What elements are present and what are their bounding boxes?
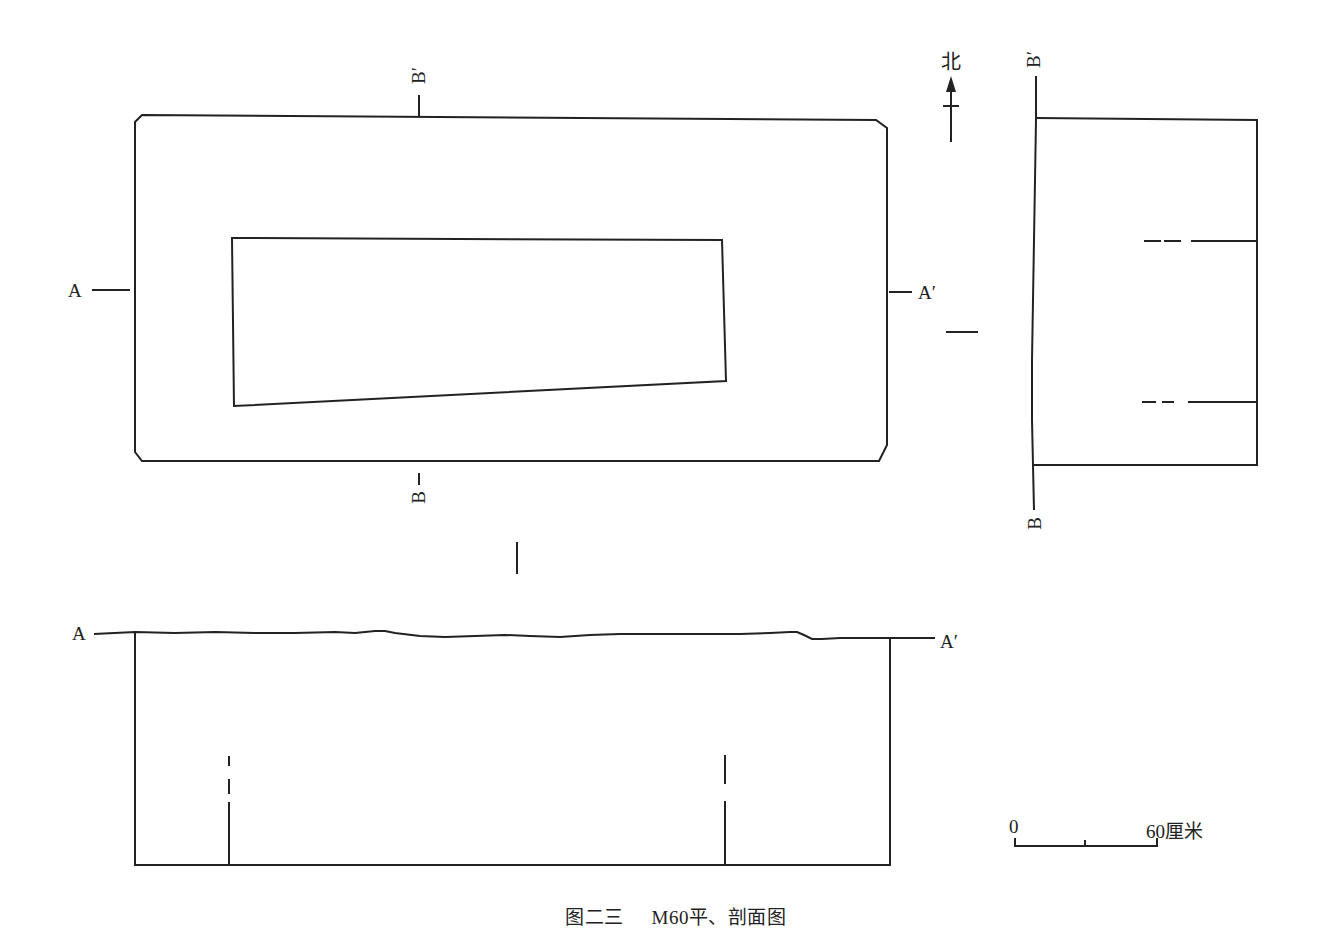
section-b-pit-outline	[1033, 118, 1257, 465]
plan-label-a: A	[68, 281, 82, 300]
scale-bar	[1015, 838, 1157, 846]
caption-title: M60平、剖面图	[652, 907, 787, 928]
section-a-view	[94, 631, 935, 865]
section-b-ground-line	[1032, 76, 1036, 510]
section-a-ground-line	[94, 631, 935, 639]
caption-number: 图二三	[565, 907, 624, 928]
north-arrow	[943, 76, 959, 142]
plan-inner-coffin	[232, 238, 726, 406]
north-arrowhead-icon	[946, 76, 956, 92]
section-b-label-top: B′	[1024, 51, 1043, 68]
plan-label-a-prime: A′	[918, 283, 936, 302]
section-b-view	[1032, 76, 1257, 510]
plan-label-b: B	[409, 491, 428, 504]
scale-start-label: 0	[1009, 816, 1019, 838]
figure-caption: 图二三M60平、剖面图	[565, 902, 786, 929]
section-a-label-right: A′	[940, 632, 958, 651]
section-a-pit-outline	[135, 632, 890, 865]
scale-end-label: 60厘米	[1146, 816, 1203, 843]
plan-outer-outline	[135, 115, 887, 461]
section-b-label-bottom: B	[1025, 517, 1044, 530]
tomb-drawing	[0, 0, 1321, 950]
north-label: 北	[941, 52, 961, 72]
section-a-label-left: A	[72, 624, 86, 643]
plan-label-b-prime: B′	[409, 67, 428, 84]
plan-view	[92, 95, 978, 574]
